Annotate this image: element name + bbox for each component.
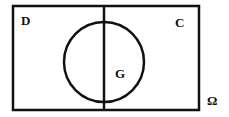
- region-c-label: C: [175, 15, 184, 30]
- set-g-label: G: [115, 66, 125, 81]
- region-d-label: D: [21, 13, 30, 28]
- universe-label: Ω: [207, 93, 217, 108]
- venn-diagram: D C G Ω: [0, 0, 229, 117]
